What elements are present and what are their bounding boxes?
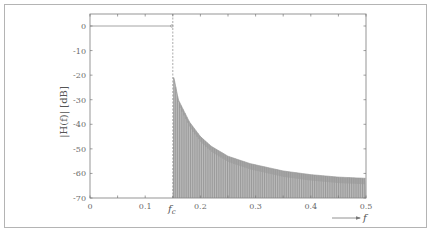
y-tick-label: -20 [73, 71, 86, 80]
x-tick-label: 0.4 [304, 202, 317, 211]
x-tick-label: 0.3 [249, 202, 262, 211]
y-tick-label: -50 [73, 145, 86, 154]
x-axis-label: f [362, 212, 369, 223]
y-tick-label: 0 [81, 22, 86, 31]
x-tick-label: 0.1 [139, 202, 152, 211]
x-tick-label: 0.2 [194, 202, 207, 211]
y-tick-label: -30 [73, 96, 86, 105]
x-tick-label: 0 [87, 202, 92, 211]
frequency-response-chart: 00.10.20.30.40.50-10-20-30-40-50-60-70 |… [0, 0, 431, 234]
y-axis-label: |H(f)| [dB] [58, 86, 70, 138]
x-tick-label: 0.5 [360, 202, 373, 211]
y-tick-label: -70 [73, 194, 86, 203]
fc-label: fc [167, 203, 176, 216]
y-tick-label: -60 [73, 169, 86, 178]
y-tick-label: -40 [73, 120, 86, 129]
y-tick-label: -10 [73, 47, 86, 56]
arrow-head-icon [356, 216, 361, 219]
plot-area: 00.10.20.30.40.50-10-20-30-40-50-60-70 [73, 14, 372, 211]
